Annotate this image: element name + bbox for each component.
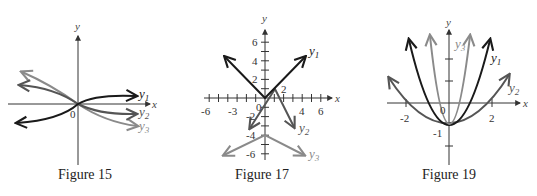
label-y3: y3 — [307, 146, 320, 163]
x-tick-label: 6 — [318, 105, 324, 117]
x-tick-label: 2 — [489, 112, 495, 124]
x-axis-label: x — [522, 97, 528, 109]
x-tick-label: -3 — [228, 105, 238, 117]
x-axis-label: x — [334, 92, 340, 104]
label-y2: y2 — [297, 120, 310, 137]
figure-caption: Figure 15 — [58, 167, 112, 183]
origin-label: 0 — [70, 108, 76, 120]
y-tick-label: -2 — [246, 110, 255, 122]
y-tick-label: 6 — [252, 36, 258, 48]
figure-19: y x 0 -2 2 -1 y1 y2 y3 Figure 19 — [360, 0, 537, 196]
y-tick-label: -6 — [246, 148, 256, 160]
curve-y3 — [22, 72, 137, 126]
y-tick-label: 4 — [252, 55, 258, 67]
label-y3: y3 — [453, 36, 466, 53]
label-y1: y1 — [489, 50, 501, 67]
label-y2: y2 — [507, 80, 520, 97]
x-tick-label: 4 — [299, 105, 305, 117]
x-tick-label: -6 — [201, 105, 211, 117]
y-tick-label: -1 — [433, 127, 442, 139]
figure-caption: Figure 19 — [422, 167, 476, 183]
figure-17: y x 0 -6 -3 4 6 6 4 2 -2 -4 -6 2 y1 y2 y… — [180, 0, 360, 196]
x-axis-label: x — [151, 98, 157, 110]
y-axis-label: y — [445, 16, 451, 28]
vertex-label: 2 — [281, 83, 287, 95]
figure-caption: Figure 17 — [235, 167, 289, 183]
origin-label: 0 — [256, 101, 262, 113]
y-axis-label: y — [261, 12, 267, 24]
curve-y1 — [17, 96, 136, 123]
x-tick-label: -2 — [400, 112, 409, 124]
y-axis-label: y — [74, 20, 80, 32]
label-y1: y1 — [307, 43, 319, 60]
y-tick-label: 2 — [252, 73, 258, 85]
figure-15: y x 0 y1 y2 y3 Figure 15 — [0, 0, 180, 196]
label-y1: y1 — [137, 86, 149, 103]
y-tick-label: -4 — [246, 129, 256, 141]
origin-label: 0 — [440, 104, 446, 116]
